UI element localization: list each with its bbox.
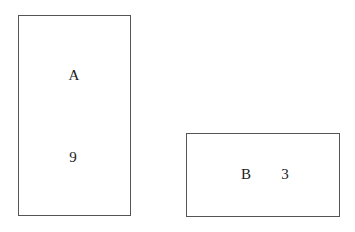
box-b-value: 3 — [281, 167, 289, 182]
box-a-label: A — [69, 68, 80, 83]
box-b-label: B — [241, 167, 251, 182]
box-a — [18, 15, 131, 216]
box-b — [186, 133, 340, 217]
box-a-value: 9 — [69, 150, 77, 165]
